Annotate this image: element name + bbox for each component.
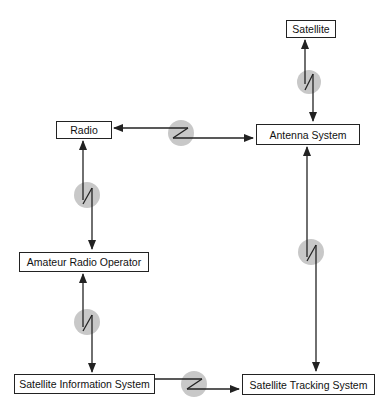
wireless-icon (298, 239, 324, 265)
node-antenna-system: Antenna System (256, 124, 360, 145)
link-satellite-antenna (297, 40, 321, 121)
node-satellite: Satellite (286, 20, 336, 38)
node-satellite-information-system: Satellite Information System (14, 374, 155, 394)
link-info-tracking (154, 371, 239, 397)
node-radio: Radio (56, 121, 112, 139)
connection-layer (0, 0, 391, 412)
link-operator-info (74, 274, 100, 372)
wireless-icon (74, 182, 100, 208)
node-amateur-radio-operator: Amateur Radio Operator (19, 252, 149, 272)
link-radio-operator (74, 141, 100, 249)
node-satellite-tracking-system: Satellite Tracking System (242, 374, 375, 395)
link-antenna-tracking (298, 147, 324, 371)
wireless-icon (74, 309, 100, 335)
link-radio-antenna (114, 120, 253, 146)
